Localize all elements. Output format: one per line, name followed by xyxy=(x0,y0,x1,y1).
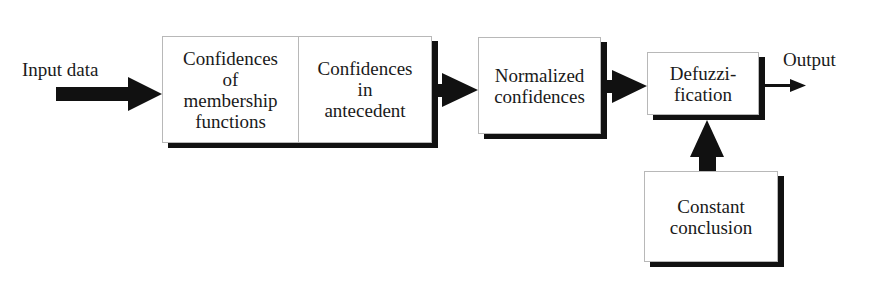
arrow-antecedent-to-normalized xyxy=(437,73,478,107)
block-membership-line-1: Confidences xyxy=(183,48,278,69)
block-antecedent-line-3: antecedent xyxy=(324,100,405,121)
block-normalized-line-1: Normalized xyxy=(495,65,585,86)
arrow-normalized-to-defuzzification xyxy=(607,70,647,103)
arrow-constant-to-defuzzification xyxy=(690,120,724,171)
block-constant-line-2: conclusion xyxy=(670,217,752,238)
block-membership-line-4: functions xyxy=(195,111,266,132)
block-defuzzification-line-2: fication xyxy=(674,84,732,105)
block-normalized: Normalized confidences xyxy=(478,37,601,134)
block-defuzzification: Defuzzi- fication xyxy=(647,52,759,115)
input-data-label: Input data xyxy=(22,60,99,80)
input-arrow xyxy=(56,77,162,111)
block-normalized-line-2: confidences xyxy=(494,86,585,107)
block-membership-line-3: membership xyxy=(184,90,278,111)
block-antecedent-line-2: in xyxy=(358,79,373,100)
block-antecedent-line-1: Confidences xyxy=(318,58,413,79)
block-defuzzification-line-1: Defuzzi- xyxy=(670,63,736,84)
block-membership-antecedent: Confidences of membership functions Conf… xyxy=(162,36,432,143)
output-label: Output xyxy=(783,50,836,70)
block-antecedent: Confidences in antecedent xyxy=(298,37,432,142)
block-membership-line-2: of xyxy=(223,69,239,90)
block-constant-conclusion: Constant conclusion xyxy=(644,171,778,262)
block-constant-line-1: Constant xyxy=(677,196,745,217)
output-arrow xyxy=(765,79,806,92)
block-membership: Confidences of membership functions xyxy=(163,37,299,142)
